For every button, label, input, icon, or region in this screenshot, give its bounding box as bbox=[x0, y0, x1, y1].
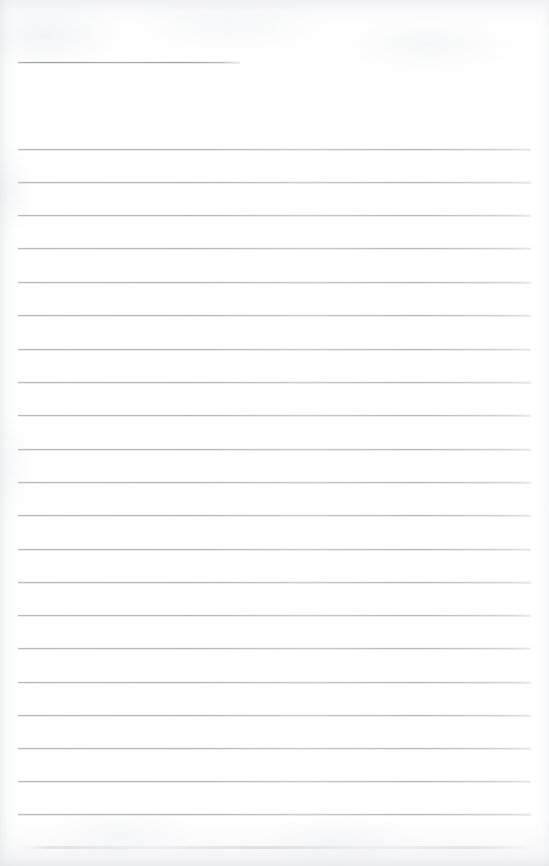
ruled-line bbox=[18, 682, 531, 683]
ruled-line bbox=[18, 482, 531, 483]
ruled-line bbox=[18, 814, 531, 815]
ruled-line bbox=[18, 182, 531, 183]
ruled-line-short bbox=[18, 62, 240, 63]
ruled-line bbox=[18, 515, 531, 516]
ruled-line bbox=[18, 349, 531, 350]
ruled-line bbox=[18, 781, 531, 782]
scanned-page bbox=[0, 0, 549, 866]
ruled-line bbox=[18, 315, 531, 316]
ruled-line bbox=[18, 248, 531, 249]
ruled-line bbox=[18, 615, 531, 616]
ruled-line bbox=[18, 748, 531, 749]
ruled-line bbox=[18, 149, 531, 150]
ruled-line bbox=[18, 648, 531, 649]
ruled-line bbox=[18, 415, 531, 416]
ruled-line bbox=[18, 715, 531, 716]
ruled-line bbox=[18, 215, 531, 216]
ruled-lines-layer bbox=[0, 0, 549, 866]
ruled-line bbox=[18, 449, 531, 450]
ruled-line bbox=[18, 582, 531, 583]
ruled-line bbox=[18, 549, 531, 550]
ruled-line bbox=[18, 282, 531, 283]
ruled-line bbox=[18, 382, 531, 383]
